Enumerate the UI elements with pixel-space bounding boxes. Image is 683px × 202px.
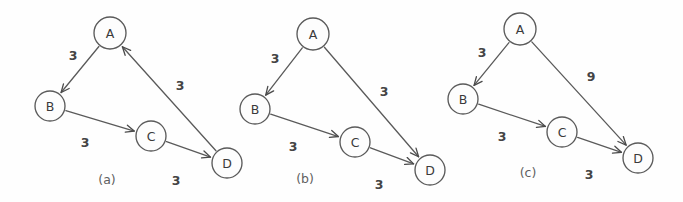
edge-line-AD [324, 47, 418, 156]
node-D[interactable]: D [623, 143, 653, 173]
graph-panel-c: 3933ABCD(c) [448, 13, 653, 182]
edge-A-to-D: 3 [324, 47, 418, 156]
edge-weight-CD: 3 [585, 167, 594, 182]
edge-B-to-C: 3 [271, 114, 339, 153]
panel-caption-0: (a) [98, 172, 115, 187]
edge-weight-AD: 9 [587, 69, 596, 84]
node-label-B: B [459, 92, 468, 107]
node-B[interactable]: B [240, 94, 270, 124]
node-A[interactable]: A [297, 18, 329, 50]
node-label-A: A [516, 22, 525, 37]
node-label-A: A [106, 26, 115, 41]
node-label-D: D [222, 156, 232, 171]
edge-line-CD [167, 142, 211, 158]
edge-line-BC [479, 104, 546, 126]
diagram-canvas: 3333ABCD(a)3333ABCD(b)3933ABCD(c) [0, 0, 683, 202]
edge-line-BC [66, 111, 134, 131]
edge-weight-AB: 3 [69, 48, 78, 63]
node-D[interactable]: D [212, 148, 242, 178]
edge-C-to-D: 3 [370, 148, 413, 192]
panel-caption-2: (c) [520, 165, 537, 180]
edge-weight-AB: 3 [271, 51, 280, 66]
node-label-B: B [46, 99, 55, 114]
edge-weight-CD: 3 [172, 173, 181, 188]
node-C[interactable]: C [340, 127, 370, 157]
node-B[interactable]: B [35, 91, 65, 121]
node-label-D: D [425, 163, 435, 178]
node-B[interactable]: B [448, 84, 478, 114]
edge-line-CD [578, 137, 622, 152]
edge-A-to-B: 3 [266, 48, 303, 95]
edge-weight-BC: 3 [289, 139, 298, 154]
node-label-D: D [633, 151, 643, 166]
edge-A-to-B: 3 [474, 43, 509, 86]
node-C[interactable]: C [547, 117, 577, 147]
edge-weight-AB: 3 [478, 45, 487, 60]
node-label-C: C [351, 135, 360, 150]
node-label-C: C [147, 129, 156, 144]
graph-figure: 3333ABCD(a)3333ABCD(b)3933ABCD(c) [0, 0, 683, 202]
node-A[interactable]: A [504, 13, 536, 45]
edge-weight-DA: 3 [176, 78, 185, 93]
edge-weight-AD: 3 [380, 84, 389, 99]
edge-A-to-B: 3 [61, 47, 99, 93]
node-label-C: C [558, 125, 567, 140]
edge-weight-BC: 3 [81, 135, 90, 150]
edge-line-AB [61, 47, 99, 93]
edge-B-to-C: 3 [66, 111, 134, 150]
edge-line-AD [532, 42, 626, 145]
edge-line-CD [370, 148, 413, 164]
edge-C-to-D: 3 [167, 142, 211, 188]
graph-panel-b: 3333ABCD(b) [240, 18, 445, 192]
node-D[interactable]: D [415, 155, 445, 185]
edge-line-BC [271, 114, 339, 136]
panel-caption-1: (b) [296, 171, 314, 186]
node-label-A: A [309, 27, 318, 42]
edge-weight-CD: 3 [375, 177, 384, 192]
edge-A-to-D: 9 [532, 42, 626, 145]
node-A[interactable]: A [94, 17, 126, 49]
node-label-B: B [251, 102, 260, 117]
edge-weight-BC: 3 [498, 129, 507, 144]
graph-panel-a: 3333ABCD(a) [35, 17, 242, 188]
edge-B-to-C: 3 [479, 104, 546, 143]
node-C[interactable]: C [136, 121, 166, 151]
edge-C-to-D: 3 [578, 137, 622, 181]
